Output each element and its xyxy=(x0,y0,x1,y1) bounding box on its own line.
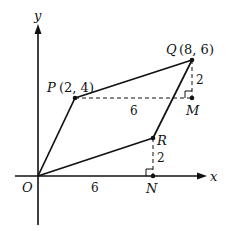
side-OP xyxy=(38,98,75,176)
origin-label: O xyxy=(22,180,33,195)
measure-QM: 2 xyxy=(196,73,204,87)
label-P: P xyxy=(46,80,56,95)
measure-ON: 6 xyxy=(91,181,99,195)
side-OR xyxy=(38,138,153,176)
point-M xyxy=(190,96,195,101)
point-Q xyxy=(190,58,195,63)
side-QR xyxy=(153,60,192,138)
point-N xyxy=(151,174,156,179)
label-Q-coords: (8, 6) xyxy=(179,42,214,57)
label-R: R xyxy=(156,133,167,148)
label-Q: Q xyxy=(166,42,177,57)
diagram-canvas: y x O P (2, 4) Q (8, 6) M R N 6 2 6 2 xyxy=(0,0,252,231)
label-M: M xyxy=(185,103,200,118)
label-N: N xyxy=(145,181,158,196)
y-axis-arrow-icon xyxy=(35,24,42,34)
point-P xyxy=(73,96,78,101)
measure-RN: 2 xyxy=(157,151,165,165)
measure-PM: 6 xyxy=(130,104,138,118)
label-P-coords: (2, 4) xyxy=(59,80,94,95)
x-axis-label: x xyxy=(210,169,218,184)
point-R xyxy=(151,136,156,141)
y-axis-label: y xyxy=(33,8,42,23)
x-axis-arrow-icon xyxy=(197,173,207,180)
